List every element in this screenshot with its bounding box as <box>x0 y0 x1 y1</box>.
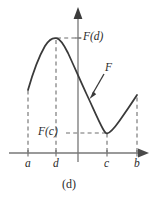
curve-name-label: F <box>105 62 112 74</box>
max-value-label: F(d) <box>83 31 103 43</box>
curve-label-pointer-icon <box>90 74 105 99</box>
x-tick-label-b: b <box>134 158 140 170</box>
min-value-label: F(c) <box>38 126 58 138</box>
x-tick-label-a: a <box>25 158 31 170</box>
figure-container: F(d) F(c) F a d c b (d) <box>0 0 155 202</box>
x-tick-label-c: c <box>104 158 109 170</box>
x-tick-label-d: d <box>53 158 59 170</box>
graph-canvas <box>0 0 155 202</box>
curve-F <box>28 38 137 133</box>
y-axis <box>74 7 83 162</box>
y-axis-arrow-icon <box>74 7 83 19</box>
figure-caption: (d) <box>62 178 76 190</box>
